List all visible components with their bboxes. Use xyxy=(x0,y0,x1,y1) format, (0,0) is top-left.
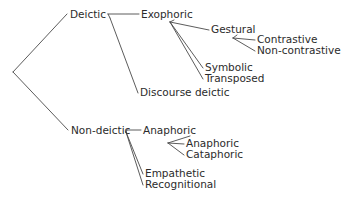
tree-label-layer: DeicticExophoricGesturalContrastiveNon-c… xyxy=(70,8,341,190)
tree-node-non-contrastive: Non-contrastive xyxy=(257,44,341,56)
taxonomy-diagram: DeicticExophoricGesturalContrastiveNon-c… xyxy=(0,0,341,201)
tree-node-deictic: Deictic xyxy=(70,8,106,20)
edge-nondeictic-recognitional xyxy=(126,132,143,185)
tree-node-anaphoric-parent: Anaphoric xyxy=(143,124,196,136)
edge-root-non-deictic xyxy=(13,72,68,130)
edge-exophoric-symbolic xyxy=(170,22,203,68)
edge-anaphoric-child xyxy=(168,143,184,144)
tree-node-non-deictic: Non-deictic xyxy=(71,124,131,136)
tree-node-transposed: Transposed xyxy=(204,72,264,84)
edge-anaphoric-cataphoric xyxy=(168,143,184,155)
tree-node-recognitional: Recognitional xyxy=(145,178,216,190)
edge-deictic-discourse xyxy=(110,18,138,93)
edge-exophoric-gestural xyxy=(170,22,209,30)
tree-node-discourse-deictic: Discourse deictic xyxy=(140,86,230,98)
edge-deictic-branch xyxy=(108,14,110,18)
tree-node-cataphoric: Cataphoric xyxy=(186,148,243,160)
tree-node-gestural: Gestural xyxy=(211,23,256,35)
edge-root-deictic xyxy=(13,14,67,72)
tree-svg: DeicticExophoricGesturalContrastiveNon-c… xyxy=(0,0,341,201)
edge-gestural-branch xyxy=(233,35,237,38)
edge-nondeictic-empathetic xyxy=(126,132,143,174)
tree-node-exophoric: Exophoric xyxy=(141,8,193,20)
edge-exophoric-transposed xyxy=(170,22,203,79)
